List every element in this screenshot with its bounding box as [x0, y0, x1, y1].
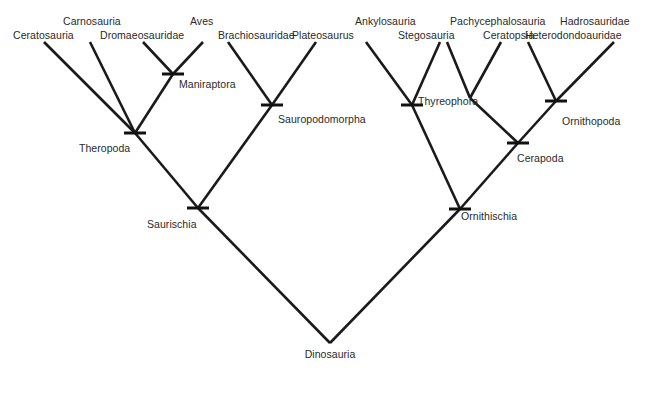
branch-ornithopoda-to-heterodondoauridae	[528, 42, 556, 101]
taxon-label-plateosaurus: Plateosaurus	[292, 30, 354, 42]
taxon-label-heterodondoauridae: Heterodondoauridae	[525, 30, 622, 42]
branch-sauropodomorpha-to-plateosaurus	[272, 42, 316, 105]
clade-label-sauropodomorpha: Sauropodomorpha	[278, 114, 366, 126]
branch-ornithischia-to-cerapoda	[460, 143, 518, 209]
cladogram-figure: CeratosauriaCarnosauriaDromaeosauridaeAv…	[0, 0, 664, 393]
taxon-label-stegosauria: Stegosauria	[398, 30, 455, 42]
taxon-label-pachycephalosauria: Pachycephalosauria	[450, 16, 545, 28]
branch-ornithischia-to-thyreophora	[412, 105, 460, 209]
taxon-label-ankylosauria: Ankylosauria	[355, 16, 416, 28]
tree-canvas	[0, 0, 664, 393]
branch-saurischia-to-theropoda	[135, 133, 198, 208]
taxon-label-carnosauria: Carnosauria	[63, 16, 121, 28]
clade-label-saurischia: Saurischia	[147, 219, 197, 231]
branch-theropoda-to-maniraptora	[135, 74, 173, 133]
branch-theropoda-to-carnosauria	[90, 42, 135, 133]
clade-label-cerapoda: Cerapoda	[517, 153, 564, 165]
taxon-label-ceratosauria: Ceratosauria	[13, 30, 74, 42]
branch-marginocephalia-to-pachycephalosauria	[447, 42, 470, 98]
taxon-label-aves: Aves	[190, 16, 213, 28]
clade-label-ornithopoda: Ornithopoda	[562, 116, 620, 128]
branch-thyreophora-to-ankylosauria	[366, 42, 412, 105]
clade-label-maniraptora: Maniraptora	[179, 79, 236, 91]
clade-label-ornithischia: Ornithischia	[461, 211, 517, 223]
branch-marginocephalia-to-ceratopsia	[470, 42, 501, 98]
clade-label-thyreophora: Thyreophora	[418, 96, 478, 108]
taxon-label-dromaeosauridae: Dromaeosauridae	[100, 30, 184, 42]
taxon-label-hadrosauridae: Hadrosauridae	[560, 16, 630, 28]
branch-ornithopoda-to-hadrosauridae	[556, 42, 614, 101]
branch-maniraptora-to-dromaeosauridae	[143, 42, 173, 74]
taxon-label-brachiosauridae: Brachiosauridae	[218, 30, 295, 42]
branch-saurischia-to-sauropodomorpha	[198, 105, 272, 208]
clade-label-theropoda: Theropoda	[79, 143, 130, 155]
branch-cerapoda-to-ornithopoda	[518, 101, 556, 143]
branch-dinosauria-to-saurischia	[198, 208, 330, 343]
clade-label-dinosauria: Dinosauria	[305, 349, 356, 361]
branch-group	[44, 42, 614, 343]
branch-theropoda-to-ceratosauria	[44, 42, 135, 133]
branch-dinosauria-to-ornithischia	[330, 209, 460, 343]
branch-maniraptora-to-aves	[173, 42, 203, 74]
branch-sauropodomorpha-to-brachiosauridae	[228, 42, 272, 105]
node-tick-group	[124, 74, 567, 209]
